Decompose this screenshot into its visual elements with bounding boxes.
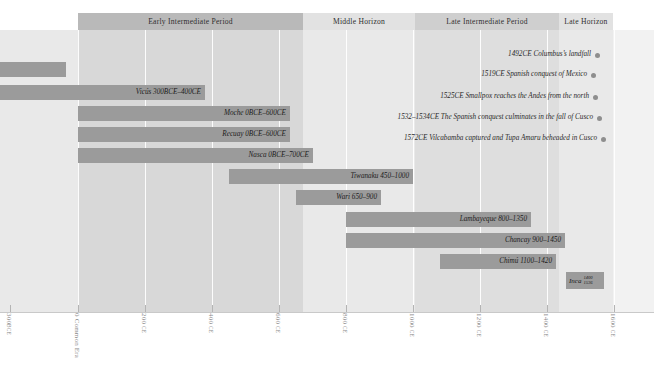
- event-dot-icon: [591, 73, 596, 78]
- gridline-0: [78, 30, 79, 313]
- axis-tick: [413, 305, 414, 312]
- gridline-400: [212, 30, 213, 313]
- event-label: 1519CE Spanish conquest of Mexico: [481, 71, 587, 78]
- tick-unit: CE: [275, 326, 281, 333]
- tick-unit: CE: [543, 330, 549, 337]
- tick-unit: CE: [342, 326, 348, 333]
- culture-bar-label: Inca: [569, 277, 581, 285]
- axis-tick-label-1600: 1600 CE: [609, 313, 617, 337]
- period-header-label: Late Horizon: [564, 17, 607, 26]
- axis-tick: [212, 305, 213, 312]
- culture-bar-label: Nasca 0BCE–700CE: [249, 152, 310, 159]
- culture-bar-label: Wari 650–900: [336, 194, 377, 201]
- axis-tick: [78, 305, 79, 312]
- gridline-200: [145, 30, 146, 313]
- event-label: 1532–1534CE The Spanish conquest culmina…: [398, 114, 593, 121]
- event-dot-icon: [597, 116, 602, 121]
- tick-unit: CE: [610, 330, 616, 337]
- axis-tick-label-200: 200 CE: [140, 313, 148, 333]
- axis-tick-label-400: 400 CE: [207, 313, 215, 333]
- axis-line: [0, 312, 654, 313]
- axis-tick: [279, 305, 280, 312]
- tick-value: 800: [341, 313, 349, 324]
- culture-bar-dates: 1400 1536: [583, 276, 592, 286]
- event-columbus-landfall[interactable]: 1492CE Columbus’s landfall: [300, 50, 600, 60]
- tick-unit: CE: [476, 330, 482, 337]
- period-header-late-intermediate[interactable]: Late Intermediate Period: [415, 13, 559, 30]
- culture-bar-label: Vicús 300BCE–400CE: [136, 89, 201, 96]
- culture-bar-nasca[interactable]: Nasca 0BCE–700CE: [78, 148, 313, 163]
- event-smallpox-andes[interactable]: 1525CE Smallpox reaches the Andes from t…: [280, 92, 598, 102]
- tick-value: 400: [207, 313, 215, 324]
- axis-tick: [547, 305, 548, 312]
- event-dot-icon: [593, 95, 598, 100]
- gridline-1600: [614, 30, 615, 313]
- culture-bar-label: Tiwanaku 450–1000: [350, 173, 409, 180]
- tick-value: 600: [274, 313, 282, 324]
- axis-tick-label-1200: 1200 CE: [475, 313, 483, 337]
- culture-bar-label: Lambayeque 800–1350: [460, 216, 527, 223]
- tick-unit: CE: [208, 326, 214, 333]
- culture-bar-tiwanaku[interactable]: Tiwanaku 450–1000: [229, 169, 413, 184]
- culture-bar-label: Chimú 1100–1420: [499, 258, 552, 265]
- culture-bar-chancay[interactable]: Chancay 900–1450: [346, 233, 565, 248]
- period-header-middle-horizon[interactable]: Middle Horizon: [303, 13, 415, 30]
- axis-tick-label-300bce: 300BCE: [5, 313, 13, 335]
- culture-bar-chimu[interactable]: Chimú 1100–1420: [440, 254, 556, 269]
- culture-bar-label: Chancay 900–1450: [505, 237, 561, 244]
- event-label: 1525CE Smallpox reaches the Andes from t…: [440, 93, 589, 100]
- inca-date-end: 1536: [583, 280, 592, 285]
- tick-value: 0 Common Era: [73, 313, 81, 358]
- axis-tick-label-1000: 1000 CE: [408, 313, 416, 337]
- culture-bar-vicus[interactable]: Vicús 300BCE–400CE: [0, 85, 205, 100]
- tick-value: 1000: [408, 313, 416, 328]
- tick-unit: CE: [409, 330, 415, 337]
- axis-tick: [10, 305, 11, 312]
- period-header-late-horizon[interactable]: Late Horizon: [559, 13, 613, 30]
- culture-bar-unlabeled[interactable]: [0, 62, 66, 77]
- period-header-early-intermediate[interactable]: Early Intermediate Period: [78, 13, 303, 30]
- period-header-label: Late Intermediate Period: [446, 17, 527, 26]
- period-header-label: Middle Horizon: [333, 17, 385, 26]
- culture-bar-inca[interactable]: Inca 1400 1536: [566, 272, 604, 289]
- event-label: 1572CE Vilcabamba captured and Tupa Amar…: [404, 135, 597, 142]
- tick-value: 1400: [542, 313, 550, 328]
- tick-value: 200: [140, 313, 148, 324]
- tick-value: 1200: [475, 313, 483, 328]
- tick-value: 1600: [609, 313, 617, 328]
- axis-tick-label-800: 800 CE: [341, 313, 349, 333]
- tick-unit: CE: [141, 326, 147, 333]
- event-spanish-conquest-mexico[interactable]: 1519CE Spanish conquest of Mexico: [300, 70, 596, 80]
- event-dot-icon: [601, 137, 606, 142]
- axis-tick: [346, 305, 347, 312]
- axis-tick: [145, 305, 146, 312]
- event-label: 1492CE Columbus’s landfall: [508, 51, 591, 58]
- axis-tick-label-0: 0 Common Era: [73, 313, 81, 358]
- axis-tick-label-600: 600 CE: [274, 313, 282, 333]
- timeline-chart: Early Intermediate Period Middle Horizon…: [0, 0, 654, 380]
- culture-bar-wari[interactable]: Wari 650–900: [296, 190, 381, 205]
- tick-unit: BCE: [6, 324, 12, 335]
- axis-tick: [480, 305, 481, 312]
- event-dot-icon: [595, 53, 600, 58]
- band-post-late-horizon: [613, 30, 654, 313]
- event-vilcabamba-tupac-amaru[interactable]: 1572CE Vilcabamba captured and Tupa Amar…: [250, 134, 606, 144]
- event-fall-of-cusco[interactable]: 1532–1534CE The Spanish conquest culmina…: [250, 113, 602, 123]
- tick-value: 300: [5, 313, 13, 324]
- culture-bar-lambayeque[interactable]: Lambayeque 800–1350: [346, 212, 531, 227]
- period-header-label: Early Intermediate Period: [148, 17, 233, 26]
- axis-tick-label-1400: 1400 CE: [542, 313, 550, 337]
- axis-tick: [614, 305, 615, 312]
